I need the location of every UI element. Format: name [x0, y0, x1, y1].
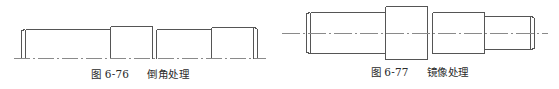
- figure-caption: 图 6-76 倒角处理: [0, 68, 280, 81]
- left-chamfer-top: [307, 13, 311, 14]
- figure-chamfer-treatment: 图 6-76 倒角处理: [0, 0, 280, 89]
- figure-caption-title: 镜像处理: [427, 66, 469, 78]
- figure-caption-title: 倒角处理: [147, 68, 189, 80]
- right-chamfer-top: [531, 17, 535, 18]
- chamfer-shaft-drawing: [0, 0, 280, 68]
- figure-caption-number: 图 6-77: [371, 66, 409, 78]
- mirror-shaft-drawing: [280, 0, 559, 66]
- figure-page: 图 6-76 倒角处理: [0, 0, 559, 89]
- figure-mirror-treatment: 图 6-77 镜像处理: [280, 0, 559, 89]
- figure-caption: 图 6-77 镜像处理: [280, 66, 559, 79]
- left-chamfer-edge: [22, 30, 26, 31]
- left-chamfer-bottom: [307, 53, 311, 54]
- figure-caption-number: 图 6-76: [91, 68, 129, 80]
- right-chamfer-edge: [254, 28, 258, 29]
- right-chamfer-bottom: [531, 49, 535, 50]
